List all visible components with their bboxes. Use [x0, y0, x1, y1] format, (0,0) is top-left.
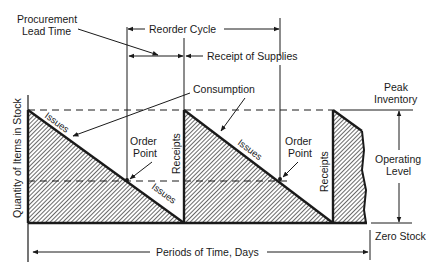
procurement-lead-time-label-line1: Procurement [17, 13, 77, 25]
order-point-1-label-line1: Order [130, 135, 157, 147]
zero-stock-label: Zero Stock [375, 230, 427, 242]
procurement-lead-time-label-line2: Lead Time [22, 25, 71, 37]
procurement-lead-time-leader [78, 29, 158, 55]
consumption-leader-2 [221, 98, 245, 131]
order-point-2-leader [283, 162, 298, 177]
order-point-2-label-line2: Point [288, 147, 312, 159]
peak-inventory-label-line1: Peak [384, 81, 409, 93]
order-point-1-marker [125, 178, 129, 182]
inventory-cycle-3-partial [333, 110, 366, 223]
consumption-leader-1 [73, 93, 190, 136]
order-point-2-marker [278, 177, 282, 181]
x-axis-label: Periods of Time, Days [156, 246, 259, 258]
reorder-cycle-label: Reorder Cycle [149, 23, 216, 35]
operating-level-label-line2: Level [386, 165, 411, 177]
consumption-label: Consumption [193, 83, 255, 95]
order-point-1-leader [130, 162, 152, 179]
peak-inventory-label-line2: Inventory [374, 93, 418, 105]
operating-level-label-line1: Operating [375, 153, 421, 165]
receipt-of-supplies-label: Receipt of Supplies [207, 50, 297, 62]
order-point-1-label-line2: Point [133, 147, 157, 159]
receipts-label-2: Receipts [318, 151, 330, 192]
y-axis-label: Quantity of Items in Stock [11, 98, 23, 218]
inventory-diagram: Reorder Cycle Receipt of Supplies Procur… [0, 0, 440, 272]
receipts-label-1: Receipts [170, 133, 182, 174]
order-point-2-label-line1: Order [285, 135, 312, 147]
